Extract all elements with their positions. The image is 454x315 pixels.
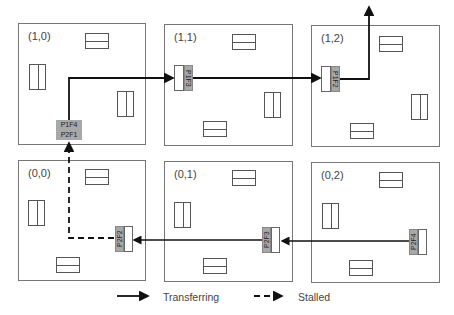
transfer-arrow-10-to-11: [69, 78, 173, 120]
stalled-arrow-00-to-10: [69, 143, 114, 238]
legend-transferring: Transferring: [163, 291, 219, 303]
transfer-arrow-12-out: [340, 7, 369, 79]
routing-arrows: [0, 0, 454, 315]
legend-stalled: Stalled: [298, 291, 330, 303]
